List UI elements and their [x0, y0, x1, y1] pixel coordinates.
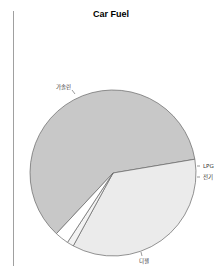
label-lpg: LPG [203, 163, 214, 169]
label-electric: 전기 [203, 173, 213, 181]
pie-slices [30, 90, 196, 256]
label-gasoline: 가솔린 [56, 83, 71, 91]
pie-chart: 가솔린 LPG 전기 디젤 [0, 0, 222, 273]
label-diesel: 디젤 [139, 257, 149, 265]
